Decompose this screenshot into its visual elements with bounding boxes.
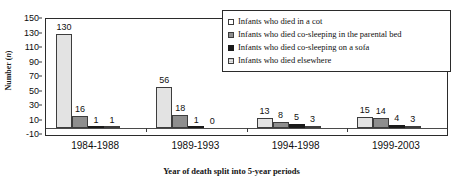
bar-value-label: 14 <box>376 106 386 116</box>
y-axis-tick-label: 150 <box>24 13 39 23</box>
y-axis-tick-labels: 1501301109070503010-10 <box>16 18 42 136</box>
bar-value-label: 0 <box>210 116 215 126</box>
bar-value-label: 1 <box>194 115 199 125</box>
y-axis-tick-label: -10 <box>26 129 39 139</box>
x-axis-category-label: 1994-1998 <box>272 140 320 151</box>
x-axis-category-label: 1984-1988 <box>71 140 119 151</box>
bar-value-label: 18 <box>175 103 185 113</box>
y-axis-tick-label: 70 <box>29 71 39 81</box>
legend-item-label: Infants who died elsewhere <box>238 56 331 65</box>
bar-value-label: 16 <box>75 104 85 114</box>
bar <box>257 118 273 127</box>
bar <box>156 87 172 128</box>
y-axis-tick-label: 130 <box>24 28 39 38</box>
legend-swatch-icon <box>228 58 234 64</box>
bar-value-label: 5 <box>294 112 299 122</box>
y-axis-tick-label: 90 <box>29 57 39 67</box>
bar <box>172 115 188 128</box>
y-axis-tick-mark <box>39 47 42 48</box>
y-axis-tick-label: 110 <box>25 42 39 52</box>
bar <box>289 124 305 128</box>
x-axis-category-label: 1999-2003 <box>372 140 420 151</box>
bar-value-label: 56 <box>159 75 169 85</box>
y-axis-tick-mark <box>39 18 42 19</box>
bar <box>56 34 72 128</box>
legend-item[interactable]: Infants who died co-sleeping in the pare… <box>228 28 445 41</box>
bar-value-label: 1 <box>94 115 99 125</box>
bar-value-label: 8 <box>278 110 283 120</box>
bar <box>373 118 389 128</box>
x-axis-tick-mark <box>247 128 248 132</box>
bar <box>188 126 204 128</box>
bar <box>88 126 104 128</box>
y-axis-title-paren: ) <box>4 50 13 53</box>
y-axis-tick-label: 10 <box>29 115 39 125</box>
bar <box>389 125 405 128</box>
bar-value-label: 3 <box>410 114 415 124</box>
y-axis-tick-mark <box>39 76 42 77</box>
x-axis-title: Year of death split into 5-year periods <box>0 166 463 176</box>
legend-item[interactable]: Infants who died in a cot <box>228 15 445 28</box>
bar-value-label: 15 <box>360 105 370 115</box>
x-axis-tick-mark <box>347 128 348 132</box>
y-axis-tick-mark <box>39 134 42 135</box>
bar-value-label: 130 <box>57 22 72 32</box>
bar <box>273 122 289 128</box>
bar-value-label: 3 <box>310 114 315 124</box>
y-axis-tick-mark <box>39 105 42 106</box>
y-axis-tick-mark <box>39 61 42 62</box>
legend-item[interactable]: Infants who died elsewhere <box>228 54 445 67</box>
bar-chart-figure: Number (n) 1501301109070503010-10 130161… <box>0 0 463 186</box>
bar <box>357 117 373 128</box>
bar <box>72 116 88 128</box>
legend-item[interactable]: Infants who died co-sleeping on a sofa <box>228 41 445 54</box>
bar <box>305 126 321 128</box>
legend-item-label: Infants who died co-sleeping in the pare… <box>238 30 402 39</box>
legend: Infants who died in a cotInfants who die… <box>222 10 451 72</box>
x-axis-category-label: 1989-1993 <box>171 140 219 151</box>
legend-item-label: Infants who died in a cot <box>238 17 322 26</box>
bar-value-label: 4 <box>394 113 399 123</box>
y-axis-tick-mark <box>39 119 42 120</box>
y-axis-title-text: Number ( <box>4 57 13 90</box>
y-axis-tick-mark <box>39 32 42 33</box>
y-axis-tick-label: 50 <box>29 86 39 96</box>
bar-value-label: 13 <box>260 106 270 116</box>
legend-swatch-icon <box>228 45 234 51</box>
legend-swatch-icon <box>228 19 234 25</box>
y-axis-title: Number (n) <box>0 0 16 140</box>
legend-swatch-icon <box>228 32 234 38</box>
bar-group: 1301611 <box>46 19 146 135</box>
y-axis-tick-label: 30 <box>29 100 39 110</box>
legend-item-label: Infants who died co-sleeping on a sofa <box>238 43 369 52</box>
bar-value-label: 1 <box>110 115 115 125</box>
bar <box>405 126 421 128</box>
bar <box>104 126 120 128</box>
y-axis-tick-mark <box>39 90 42 91</box>
x-axis-tick-mark <box>146 128 147 132</box>
